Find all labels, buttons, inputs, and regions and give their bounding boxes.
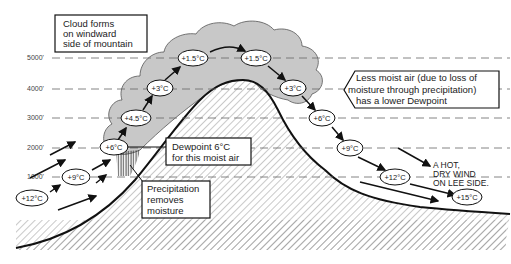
- temp-marker: +3°C: [147, 80, 173, 96]
- altitude-label-1000: 1000': [27, 173, 44, 180]
- svg-text:+3°C: +3°C: [285, 84, 303, 93]
- temp-marker: +6°C: [100, 139, 128, 155]
- svg-text:side of mountain: side of mountain: [63, 38, 133, 49]
- hot-wind-label: A HOT, DRY WIND ON LEE SIDE.: [433, 160, 489, 188]
- svg-text:for this moist air: for this moist air: [172, 152, 239, 163]
- temp-marker: +12°C: [16, 190, 48, 206]
- callout-cloud-forms: Cloud forms on windward side of mountain: [55, 15, 147, 52]
- temp-marker: +15°C: [452, 189, 482, 205]
- svg-text:+3°C: +3°C: [152, 84, 170, 93]
- svg-text:moisture: moisture: [147, 205, 183, 216]
- temp-marker: +1.5°C: [178, 50, 208, 66]
- foehn-diagram: 5000' 4000' 3000' 2000' 1000' +12°C +9°C…: [0, 0, 511, 264]
- temp-marker: +9°C: [62, 169, 90, 185]
- svg-text:+1.5°C: +1.5°C: [181, 54, 205, 63]
- temp-marker: +6°C: [309, 110, 335, 126]
- altitude-label-3000: 3000': [27, 114, 44, 121]
- temp-marker: +1.5°C: [241, 50, 271, 66]
- svg-text:Precipitation: Precipitation: [147, 183, 199, 194]
- altitude-label-5000: 5000': [27, 54, 44, 61]
- temp-marker: +4.5°C: [121, 110, 151, 126]
- temp-marker: +3°C: [280, 80, 306, 96]
- svg-text:+6°C: +6°C: [106, 143, 124, 152]
- altitude-label-4000: 4000': [27, 85, 44, 92]
- svg-text:ON LEE SIDE.: ON LEE SIDE.: [433, 178, 489, 188]
- altitude-labels: 5000' 4000' 3000' 2000' 1000': [27, 54, 44, 180]
- svg-text:+4.5°C: +4.5°C: [124, 114, 148, 123]
- svg-text:Less moist air (due to loss of: Less moist air (due to loss of: [356, 72, 477, 83]
- temp-marker: +9°C: [337, 140, 363, 156]
- svg-text:+9°C: +9°C: [68, 173, 86, 182]
- svg-text:moisture through precipitation: moisture through precipitation): [348, 84, 476, 95]
- svg-text:+12°C: +12°C: [21, 194, 43, 203]
- svg-text:+1.5°C: +1.5°C: [244, 54, 268, 63]
- svg-text:Dewpoint 6°C: Dewpoint 6°C: [172, 141, 230, 152]
- svg-text:+9°C: +9°C: [342, 144, 360, 153]
- svg-text:+12°C: +12°C: [384, 173, 406, 182]
- temp-marker: +12°C: [380, 169, 410, 185]
- svg-text:has a lower Dewpoint: has a lower Dewpoint: [356, 95, 447, 106]
- svg-text:+6°C: +6°C: [314, 114, 332, 123]
- altitude-label-2000: 2000': [27, 144, 44, 151]
- svg-text:removes: removes: [147, 194, 184, 205]
- svg-text:+15°C: +15°C: [456, 193, 478, 202]
